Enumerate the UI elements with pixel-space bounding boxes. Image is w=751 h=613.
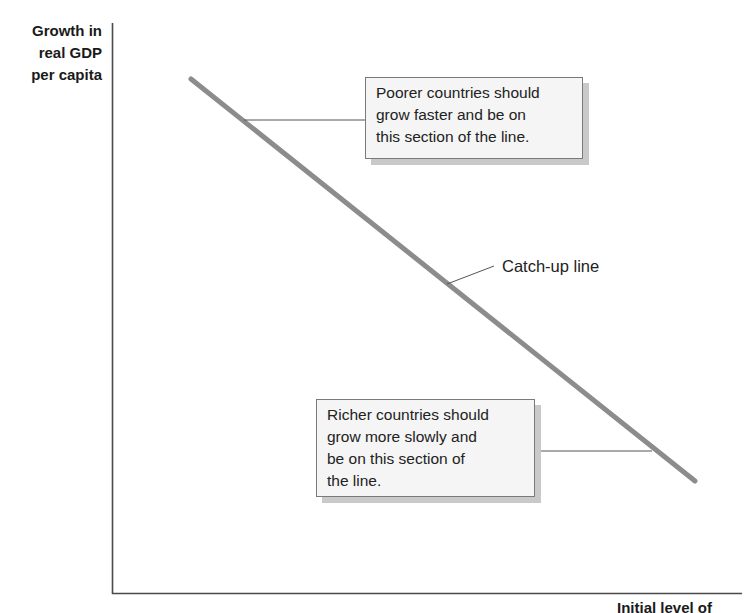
x-axis-label: Initial level of [617, 599, 712, 613]
callout-line: Richer countries should [327, 404, 524, 426]
callout-line: grow faster and be on [376, 104, 572, 126]
callout-line: be on this section of [327, 448, 524, 470]
callout-line: the line. [327, 470, 524, 492]
richer-countries-callout: Richer countries should grow more slowly… [316, 399, 535, 497]
catch-up-label-connector [447, 266, 494, 284]
callout-line: Poorer countries should [376, 82, 572, 104]
callout-line: this section of the line. [376, 126, 572, 148]
poorer-countries-callout: Poorer countries should grow faster and … [365, 77, 583, 159]
catch-up-line-label: Catch-up line [502, 256, 599, 276]
callout-line: grow more slowly and [327, 426, 524, 448]
